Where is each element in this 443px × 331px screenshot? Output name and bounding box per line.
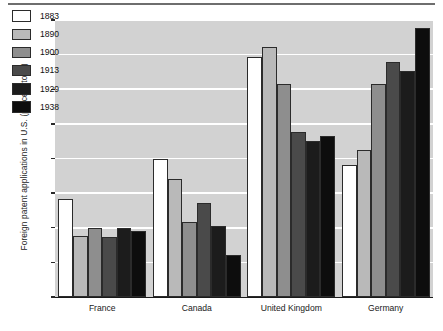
legend-item[interactable]: 1883 [12,7,59,25]
x-axis-label: Canada [150,303,245,313]
bar [168,179,183,297]
bar [73,236,88,297]
legend-item[interactable]: 1929 [12,80,59,98]
bar-group [153,20,241,297]
bar [291,132,306,297]
bar [58,199,73,297]
x-axis-label: France [55,303,150,313]
legend-label: 1929 [40,85,59,94]
legend-label: 1938 [40,103,59,112]
bar [342,165,357,297]
bar [182,222,197,297]
bar-group [247,20,335,297]
bar [320,136,335,297]
y-tick-mark [51,123,55,124]
bar [357,150,372,297]
legend-label: 1890 [40,30,59,39]
legend-swatch [12,10,31,22]
x-axis-label: Germany [339,303,434,313]
y-tick-mark [51,158,55,159]
bar [153,159,168,298]
legend-swatch [12,101,31,113]
legend: 188318901900191319291938 [12,7,59,116]
legend-item[interactable]: 1938 [12,98,59,116]
legend-swatch [12,83,31,95]
bar-group [342,20,430,297]
bar [306,141,321,297]
bar-group [58,20,146,297]
legend-item[interactable]: 1913 [12,62,59,80]
y-tick-mark [51,192,55,193]
bar [197,203,212,297]
bar [400,71,415,297]
bar [131,231,146,297]
legend-item[interactable]: 1900 [12,43,59,61]
bar [226,255,241,297]
legend-label: 1883 [40,12,59,21]
x-axis-label: United Kingdom [244,303,339,313]
bar [247,57,262,297]
bar [117,228,132,297]
bar [102,237,117,297]
y-tick-mark [51,296,55,297]
y-tick-mark [51,227,55,228]
bar [415,28,430,297]
bar [371,84,386,297]
chart-figure: Foreign patent applications in U.S. (per… [0,0,443,331]
legend-item[interactable]: 1890 [12,25,59,43]
bar [277,84,292,297]
legend-label: 1900 [40,48,59,57]
legend-label: 1913 [40,66,59,75]
bar [386,62,401,297]
legend-swatch [12,29,31,41]
legend-swatch [12,47,31,59]
header-rule [8,3,435,5]
bar [262,47,277,297]
y-tick-mark [51,262,55,263]
bar [211,226,226,297]
legend-swatch [12,65,31,77]
bar [88,228,103,297]
